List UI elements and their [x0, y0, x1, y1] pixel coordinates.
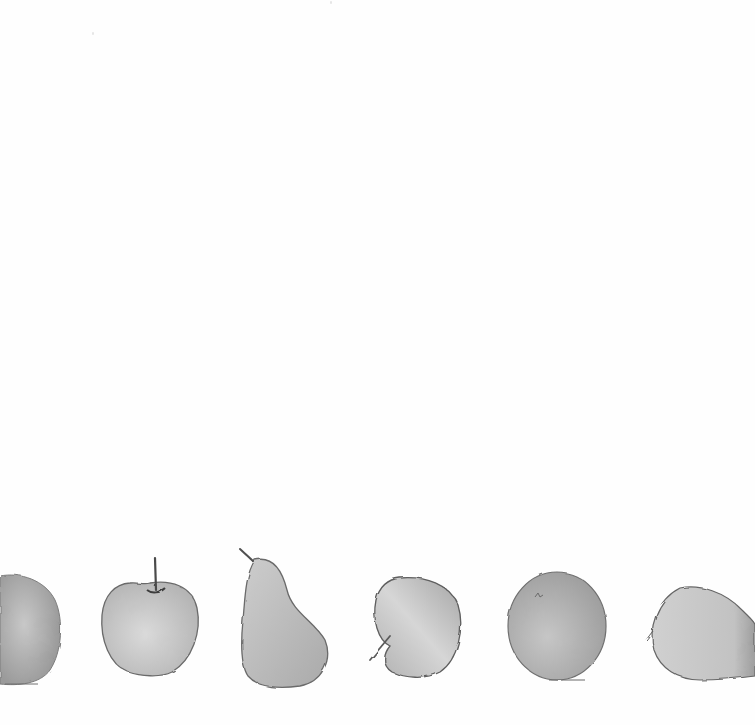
- fruit-apple-tilted: [370, 578, 461, 678]
- fruit-row: [0, 0, 755, 725]
- fruit-pear: [240, 549, 328, 687]
- fruit-orange: [508, 572, 606, 680]
- fruit-apple-right: [646, 587, 755, 680]
- fruit-apple-left: [0, 575, 61, 685]
- watercolor-canvas: [0, 0, 755, 725]
- fruit-apple-stem: [102, 558, 199, 676]
